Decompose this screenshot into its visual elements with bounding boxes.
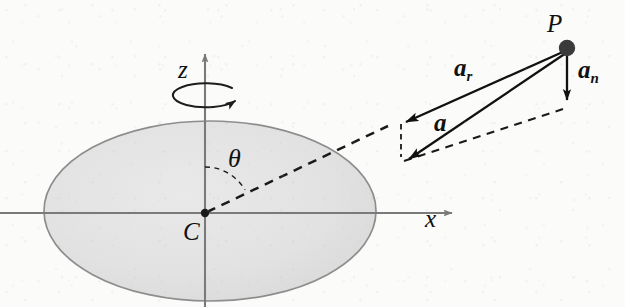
vector-a [409,53,566,159]
point-c-marker [201,209,209,217]
vector-an-subscript: n [591,70,599,86]
diagram-canvas [0,0,625,307]
point-p-label: P [547,11,562,36]
vector-an-base: a [578,56,591,83]
physics-diagram-figure: z x C P θ a ar an [0,0,625,307]
parallelogram-dashed [401,109,563,161]
x-axis-label: x [425,206,436,231]
center-label: C [183,219,200,244]
theta-label: θ [228,146,241,172]
vector-a-base: a [434,109,447,136]
spin-arrow [173,83,235,107]
vector-ar-subscript: r [467,68,473,84]
vector-ar-base: a [454,54,467,81]
vector-ar [406,51,565,122]
z-axis-label: z [178,57,188,82]
vector-a-label: a [434,110,447,135]
vector-ar-label: ar [454,55,472,80]
point-p-marker [559,40,575,56]
vector-an-label: an [578,57,599,82]
